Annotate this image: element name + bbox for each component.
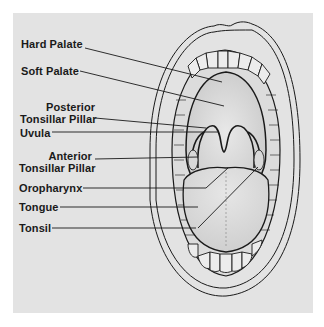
label-posterior-tonsillar-pillar-line1: Posterior [46, 101, 92, 113]
label-anterior-tonsillar-pillar-line1: Anterior [46, 150, 92, 162]
label-hard-palate: Hard Palate [21, 38, 83, 50]
label-posterior-tonsillar-pillar-line2: Tonsillar Pillar [20, 113, 92, 125]
label-soft-palate: Soft Palate [21, 65, 79, 77]
label-oropharynx: Oropharynx [19, 182, 82, 194]
label-tonsil: Tonsil [19, 222, 51, 234]
label-anterior-tonsillar-pillar-line2: Tonsillar Pillar [19, 162, 92, 174]
label-uvula: Uvula [20, 127, 50, 139]
label-tongue: Tongue [19, 201, 59, 213]
